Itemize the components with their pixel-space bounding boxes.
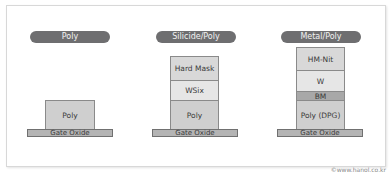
layer-poly-dpg: Poly (DPG) (296, 100, 345, 130)
credit-text: ©www.hanol.co.kr (331, 166, 386, 173)
header-metal-poly: Metal/Poly (281, 31, 361, 43)
header-silicide-poly: Silicide/Poly (156, 31, 236, 43)
layer-w: W (296, 70, 345, 92)
header-poly: Poly (30, 31, 110, 43)
layer-hm-nit: HM-Nit (296, 47, 345, 71)
layer-gate-oxide: Gate Oxide (277, 129, 363, 137)
layer-poly: Poly (170, 100, 219, 130)
layer-hard-mask: Hard Mask (170, 56, 219, 81)
layer-gate-oxide: Gate Oxide (152, 129, 238, 137)
layer-gate-oxide: Gate Oxide (27, 129, 113, 137)
layer-wsix: WSix (170, 80, 219, 101)
layer-poly: Poly (45, 100, 95, 130)
